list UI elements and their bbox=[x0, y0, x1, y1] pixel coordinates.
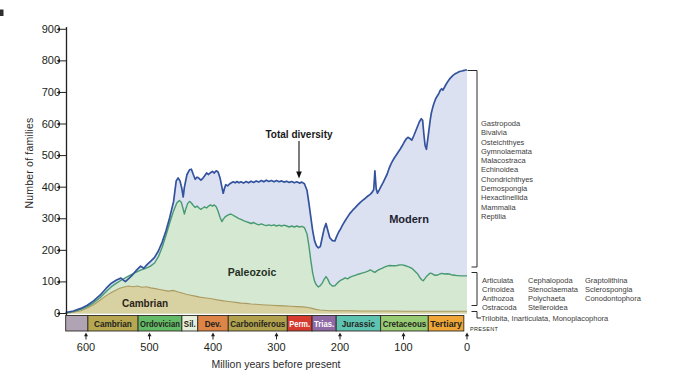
y-tick-label: 700 bbox=[20, 86, 60, 98]
y-tick-label: 400 bbox=[20, 181, 60, 193]
modern-group-item: Malacostraca bbox=[481, 156, 533, 165]
paleozoic-fauna-group-column: GraptolithinaSclerospongiaConodontophora bbox=[585, 277, 641, 304]
x-tick-arrowhead bbox=[275, 333, 279, 337]
annotation-total-diversity: Total diversity bbox=[265, 129, 332, 140]
paleozoic-fauna-group-column: CephalopodaStenoclaemataPolychaetaStelle… bbox=[528, 277, 578, 313]
y-tick-label: 0 bbox=[20, 307, 60, 319]
modern-group-item: Chondrichthyes bbox=[481, 175, 533, 184]
modern-group-item: Bivalvia bbox=[481, 128, 533, 137]
period-band-label: Dev. bbox=[205, 320, 222, 329]
modern-group-item: Hexactinellida bbox=[481, 193, 533, 202]
plot-svg: CambrianOrdovicianSil.Dev.CarboniferousP… bbox=[0, 0, 674, 387]
present-label: PRESENT bbox=[470, 326, 498, 332]
bracket-modern-fauna bbox=[468, 71, 478, 268]
x-tick-label: 400 bbox=[195, 341, 231, 353]
annotation-paleozoic-fauna: Paleozoic bbox=[228, 266, 276, 278]
x-tick-label: 100 bbox=[386, 341, 422, 353]
x-tick-arrowhead bbox=[211, 333, 215, 337]
y-axis-label: Number of families bbox=[23, 117, 35, 208]
modern-group-item: Reptilia bbox=[481, 212, 533, 221]
modern-group-item: Gymnolaemata bbox=[481, 147, 533, 156]
modern-group-item: Gastropoda bbox=[481, 119, 533, 128]
period-band-label: Jurassic bbox=[342, 320, 376, 329]
y-tick-label: 200 bbox=[20, 244, 60, 256]
period-band-label: Cretaceous bbox=[383, 320, 427, 329]
modern-group-item: Demospongia bbox=[481, 184, 533, 193]
paleozoic-group-item: Stelleroidea bbox=[528, 304, 578, 313]
annotation-cambrian-fauna: Cambrian bbox=[122, 298, 168, 309]
bracket-cambrian-fauna bbox=[472, 312, 482, 319]
y-tick-label: 600 bbox=[20, 118, 60, 130]
y-tick-label: 300 bbox=[20, 212, 60, 224]
x-tick-arrowhead bbox=[148, 333, 152, 337]
paleozoic-fauna-group-column: ArticulataCrinoideaAnthozoaOstracoda bbox=[482, 277, 517, 313]
period-band-label: Cambrian bbox=[94, 320, 132, 329]
period-band-label: Ordovician bbox=[140, 320, 180, 329]
x-tick-label: 500 bbox=[132, 341, 168, 353]
period-band-segment bbox=[66, 316, 88, 332]
x-tick-arrowhead bbox=[402, 333, 406, 337]
y-tick-label: 900 bbox=[20, 23, 60, 35]
x-tick-label: 0 bbox=[449, 341, 485, 353]
x-tick-label: 600 bbox=[68, 341, 104, 353]
modern-group-item: Echinoidea bbox=[481, 165, 533, 174]
y-tick-label: 100 bbox=[20, 275, 60, 287]
modern-fauna-group-list: GastropodaBivalviaOsteichthyesGymnolaema… bbox=[481, 119, 533, 221]
period-band-label: Perm. bbox=[289, 320, 310, 329]
x-tick-label: 300 bbox=[259, 341, 295, 353]
y-tick-label: 500 bbox=[20, 149, 60, 161]
x-tick-arrowhead bbox=[338, 333, 342, 337]
marine-family-diversity-chart: CambrianOrdovicianSil.Dev.CarboniferousP… bbox=[0, 0, 674, 387]
x-tick-label: 200 bbox=[322, 341, 358, 353]
modern-group-item: Mammalia bbox=[481, 203, 533, 212]
x-tick-arrowhead bbox=[84, 333, 88, 337]
bracket-paleozoic-fauna bbox=[472, 273, 478, 306]
total-diversity-arrowhead bbox=[296, 172, 302, 179]
paleozoic-group-item: Ostracoda bbox=[482, 304, 517, 313]
x-tick-arrowhead bbox=[465, 333, 469, 337]
period-band-label: Trias. bbox=[314, 320, 334, 329]
paleozoic-group-item: Conodontophora bbox=[585, 295, 641, 304]
annotation-modern-fauna: Modern bbox=[389, 213, 429, 225]
period-band-label: Sil. bbox=[184, 320, 196, 329]
crop-artifact bbox=[0, 10, 4, 17]
cambrian-fauna-group-list: Trilobita, Inarticulata, Monoplacophora bbox=[481, 314, 608, 323]
period-band-label: Tertiary bbox=[430, 320, 462, 329]
period-band-label: Carboniferous bbox=[230, 320, 286, 329]
modern-group-item: Osteichthyes bbox=[481, 138, 533, 147]
x-axis-label: Million years before present bbox=[212, 358, 341, 370]
y-tick-label: 800 bbox=[20, 54, 60, 66]
